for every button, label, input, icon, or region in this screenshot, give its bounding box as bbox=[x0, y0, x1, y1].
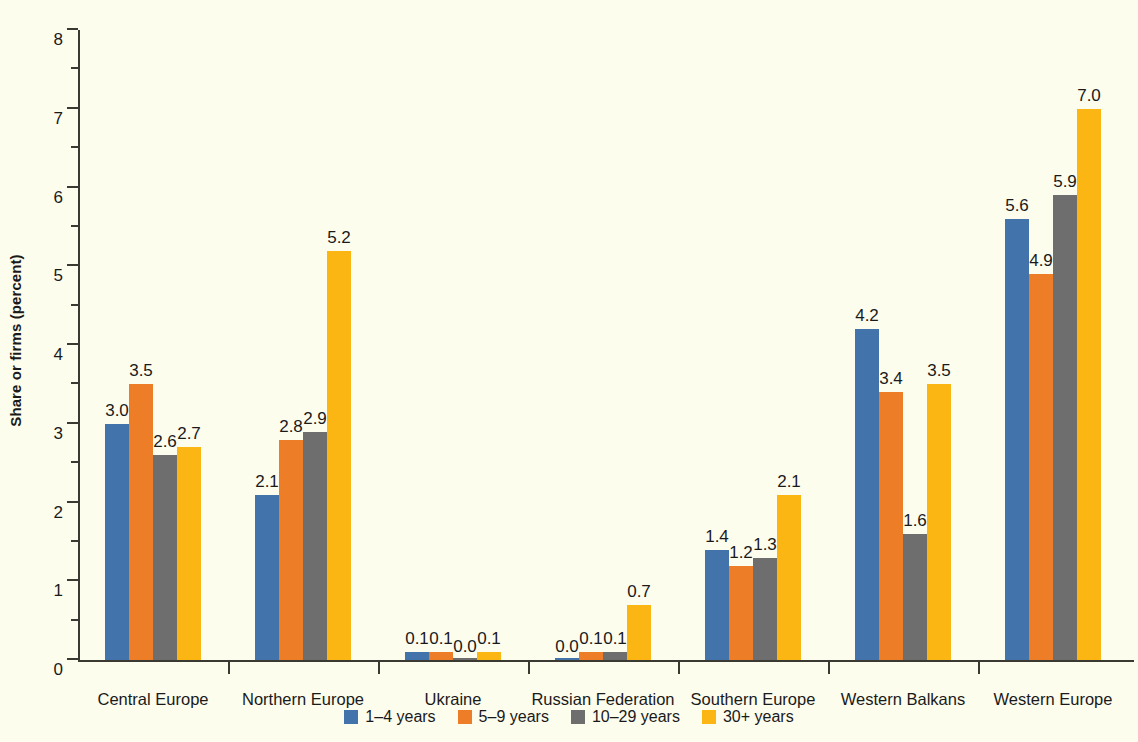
x-axis-separator bbox=[828, 660, 830, 674]
bar[interactable] bbox=[879, 392, 903, 660]
chart-page: Share or firms (percent) 012345678 3.03.… bbox=[0, 0, 1138, 742]
bar[interactable] bbox=[903, 534, 927, 660]
legend-item[interactable]: 5–9 years bbox=[458, 708, 549, 726]
x-axis-separator bbox=[528, 660, 530, 674]
x-category-label: Central Europe bbox=[78, 690, 228, 709]
legend-item[interactable]: 30+ years bbox=[702, 708, 794, 726]
y-tick-minor bbox=[71, 540, 78, 542]
legend-item[interactable]: 1–4 years bbox=[344, 708, 435, 726]
bar-value-label: 2.1 bbox=[777, 473, 801, 490]
bar-group: 5.64.95.97.0Western Europe bbox=[978, 30, 1128, 660]
bar[interactable] bbox=[855, 329, 879, 660]
bar[interactable] bbox=[303, 432, 327, 660]
bar-value-label: 0.1 bbox=[603, 630, 627, 647]
bar[interactable] bbox=[927, 384, 951, 660]
bar[interactable] bbox=[453, 658, 477, 660]
bar[interactable] bbox=[129, 384, 153, 660]
bar-column: 5.9 bbox=[1053, 30, 1077, 660]
bar-value-label: 0.1 bbox=[477, 630, 501, 647]
bar[interactable] bbox=[555, 658, 579, 660]
x-category-label: Northern Europe bbox=[228, 690, 378, 709]
bar[interactable] bbox=[603, 652, 627, 660]
bar-group: 1.41.21.32.1Southern Europe bbox=[678, 30, 828, 660]
y-tick-major bbox=[67, 264, 78, 266]
bar-group-bars: 2.12.82.95.2 bbox=[228, 30, 378, 660]
bar-column: 2.7 bbox=[177, 30, 201, 660]
bar-column: 5.6 bbox=[1005, 30, 1029, 660]
bar[interactable] bbox=[177, 447, 201, 660]
bar-column: 3.4 bbox=[879, 30, 903, 660]
legend-item[interactable]: 10–29 years bbox=[571, 708, 680, 726]
bar[interactable] bbox=[429, 652, 453, 660]
bar-column: 1.4 bbox=[705, 30, 729, 660]
legend-label: 30+ years bbox=[723, 708, 794, 726]
bar-value-label: 2.8 bbox=[279, 418, 303, 435]
bar-group: 4.23.41.63.5Western Balkans bbox=[828, 30, 978, 660]
bar-value-label: 2.6 bbox=[153, 433, 177, 450]
x-axis-separator bbox=[978, 660, 980, 674]
bar-group-bars: 4.23.41.63.5 bbox=[828, 30, 978, 660]
y-tick-major bbox=[67, 28, 78, 30]
bar-value-label: 0.1 bbox=[429, 630, 453, 647]
plot-area: 012345678 3.03.52.62.7Central Europe2.12… bbox=[78, 30, 1128, 660]
bar-group: 3.03.52.62.7Central Europe bbox=[78, 30, 228, 660]
bar-value-label: 7.0 bbox=[1077, 87, 1101, 104]
bar[interactable] bbox=[753, 558, 777, 660]
x-category-label: Southern Europe bbox=[678, 690, 828, 709]
bar-group-bars: 5.64.95.97.0 bbox=[978, 30, 1128, 660]
bar[interactable] bbox=[405, 652, 429, 660]
bar[interactable] bbox=[327, 251, 351, 661]
bar[interactable] bbox=[105, 424, 129, 660]
bar-value-label: 4.9 bbox=[1029, 252, 1053, 269]
bar-column: 2.9 bbox=[303, 30, 327, 660]
y-axis-title: Share or firms (percent) bbox=[0, 0, 30, 680]
bar-column: 0.1 bbox=[579, 30, 603, 660]
bar-value-label: 5.2 bbox=[327, 229, 351, 246]
legend-swatch-icon bbox=[571, 710, 585, 724]
legend-label: 10–29 years bbox=[592, 708, 680, 726]
bar-value-label: 0.1 bbox=[579, 630, 603, 647]
y-tick-major bbox=[67, 107, 78, 109]
legend-label: 1–4 years bbox=[365, 708, 435, 726]
bar-value-label: 0.0 bbox=[555, 638, 579, 655]
y-tick-major bbox=[67, 186, 78, 188]
bar[interactable] bbox=[1053, 195, 1077, 660]
bar-group: 2.12.82.95.2Northern Europe bbox=[228, 30, 378, 660]
bar[interactable] bbox=[477, 652, 501, 660]
bar-group-bars: 1.41.21.32.1 bbox=[678, 30, 828, 660]
legend-swatch-icon bbox=[458, 710, 472, 724]
legend-label: 5–9 years bbox=[479, 708, 549, 726]
bar-value-label: 2.9 bbox=[303, 410, 327, 427]
bar-value-label: 2.1 bbox=[255, 473, 279, 490]
bar[interactable] bbox=[579, 652, 603, 660]
bar[interactable] bbox=[1077, 109, 1101, 660]
bar-group: 0.10.10.00.1Ukraine bbox=[378, 30, 528, 660]
bar-value-label: 3.5 bbox=[129, 362, 153, 379]
bar-group-bars: 0.10.10.00.1 bbox=[378, 30, 528, 660]
bar[interactable] bbox=[777, 495, 801, 660]
bar-column: 1.2 bbox=[729, 30, 753, 660]
x-category-label: Western Balkans bbox=[828, 690, 978, 709]
bar-value-label: 3.4 bbox=[879, 370, 903, 387]
bar-value-label: 5.6 bbox=[1005, 197, 1029, 214]
bar[interactable] bbox=[255, 495, 279, 660]
bar[interactable] bbox=[1005, 219, 1029, 660]
x-category-label: Ukraine bbox=[378, 690, 528, 709]
bar-column: 5.2 bbox=[327, 30, 351, 660]
bar-value-label: 1.3 bbox=[753, 536, 777, 553]
bar[interactable] bbox=[1029, 274, 1053, 660]
bar[interactable] bbox=[279, 440, 303, 661]
bar-value-label: 2.7 bbox=[177, 425, 201, 442]
bar-column: 3.5 bbox=[129, 30, 153, 660]
bar-column: 2.1 bbox=[777, 30, 801, 660]
bar[interactable] bbox=[705, 550, 729, 660]
x-category-label: Western Europe bbox=[978, 690, 1128, 709]
y-tick-major bbox=[67, 658, 78, 660]
bar[interactable] bbox=[153, 455, 177, 660]
y-tick-minor bbox=[71, 461, 78, 463]
y-tick-minor bbox=[71, 225, 78, 227]
bar[interactable] bbox=[627, 605, 651, 660]
bar[interactable] bbox=[729, 566, 753, 661]
y-tick-minor bbox=[71, 304, 78, 306]
bar-column: 0.1 bbox=[429, 30, 453, 660]
